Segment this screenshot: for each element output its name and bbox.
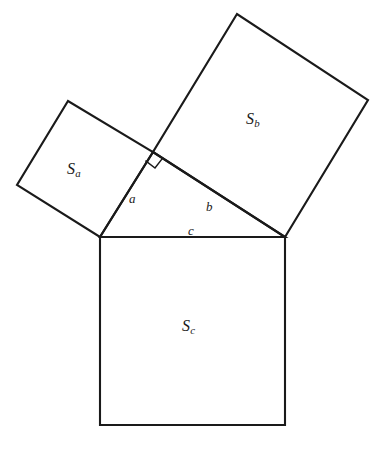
- pythagorean-theorem-figure: Sa Sb Sc a b c: [0, 0, 376, 449]
- side-c-label: c: [188, 224, 194, 237]
- side-a-label: a: [129, 192, 136, 205]
- square-sc-label: Sc: [182, 318, 195, 336]
- square-sa-label: Sa: [67, 161, 81, 179]
- square-sb-label: Sb: [246, 111, 260, 129]
- side-b-label: b: [206, 200, 213, 213]
